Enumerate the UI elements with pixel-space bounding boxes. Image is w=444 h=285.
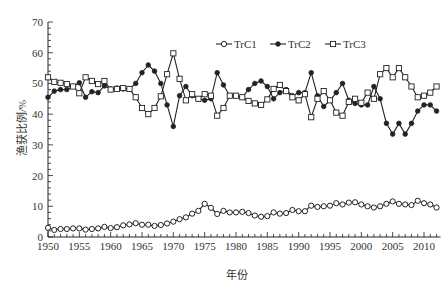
data-point-square-open [434,84,439,89]
y-axis-label: 渔获比例/% [15,100,28,156]
data-point-square-open [415,95,420,100]
data-point-circle-open [371,205,376,210]
data-point-circle-open [96,226,101,231]
data-point-circle-filled [296,90,301,95]
data-point-circle-open [258,214,263,219]
data-point-square-open [284,89,289,94]
data-point-circle-open [284,210,289,215]
data-point-circle-open [133,221,138,226]
data-point-circle-open [64,226,69,231]
data-point-square-open [70,84,75,89]
data-point-circle-open [421,201,426,206]
y-tick-label: 20 [32,170,44,182]
data-point-circle-open [227,210,232,215]
x-tick-label: 1970 [162,240,185,252]
data-point-square-open [45,75,50,80]
data-point-circle-open [190,211,195,216]
data-point-circle-open [58,226,63,231]
data-point-square-open [428,90,433,95]
data-point-circle-filled [221,83,226,88]
data-point-circle-filled [409,121,414,126]
data-point-circle-open [208,205,213,210]
y-tick-label: 30 [32,139,44,151]
x-tick-label: 1960 [100,240,123,252]
data-point-circle-filled [146,63,151,68]
data-point-circle-open [252,213,257,218]
series-trc1 [45,198,439,232]
data-point-square-open [221,105,226,110]
data-point-circle-open [183,215,188,220]
data-point-circle-filled [246,87,251,92]
axes: 0102030405060701950195519601965197019751… [32,16,441,252]
data-point-circle-filled [152,69,157,74]
legend-label: TrC2 [288,38,311,50]
data-point-square-open [277,82,282,87]
data-point-circle-open [334,201,339,206]
data-point-square-open [396,65,401,70]
data-point-circle-filled [65,87,70,92]
data-point-circle-filled [365,103,370,108]
data-point-circle-open [177,217,182,222]
data-point-square-open [359,100,364,105]
data-point-circle-filled [102,84,107,89]
data-point-circle-open [127,222,132,227]
line-chart: 0102030405060701950195519601965197019751… [0,0,444,285]
data-point-circle-filled [422,103,427,108]
data-point-circle-open [146,222,151,227]
data-point-square-open [139,105,144,110]
data-point-circle-open [215,211,220,216]
data-point-circle-filled [184,84,189,89]
data-point-square-open [114,86,119,91]
y-tick-label: 60 [32,47,44,59]
data-point-square-open [208,93,213,98]
data-point-circle-filled [202,98,207,103]
data-point-circle-filled [140,70,145,75]
data-point-square-open [378,72,383,77]
data-point-circle-open [346,200,351,205]
data-point-square-open [202,92,207,97]
data-point-square-open [127,86,132,91]
data-point-circle-open [52,227,57,232]
data-point-circle-open [139,222,144,227]
data-point-square-open [246,98,251,103]
data-point-square-open [177,76,182,81]
data-point-circle-open [390,199,395,204]
data-point-circle-open [403,202,408,207]
data-point-square-open [121,85,126,90]
data-point-circle-open [221,41,226,46]
data-point-circle-filled [415,109,420,114]
data-point-circle-filled [171,124,176,129]
data-point-circle-filled [46,95,51,100]
data-point-circle-filled [321,104,326,109]
data-point-circle-open [315,204,320,209]
data-point-circle-open [428,202,433,207]
data-point-circle-open [233,210,238,215]
data-point-circle-filled [334,90,339,95]
data-point-circle-open [121,223,126,228]
data-point-square-open [321,89,326,94]
data-point-square-open [96,81,101,86]
x-tick-label: 1995 [319,240,342,252]
data-point-square-open [271,86,276,91]
y-tick-label: 50 [32,77,44,89]
data-point-square-open [240,95,245,100]
data-point-circle-open [114,225,119,230]
legend-item-trc2: TrC2 [270,38,311,50]
data-point-circle-filled [340,81,345,86]
data-point-square-open [252,101,257,106]
data-point-circle-open [378,204,383,209]
data-point-circle-filled [265,84,270,89]
data-point-circle-filled [278,90,283,95]
data-point-square-open [365,90,370,95]
data-point-square-open [108,87,113,92]
data-point-square-open [190,92,195,97]
data-point-square-open [346,99,351,104]
data-point-circle-filled [372,84,377,89]
data-point-circle-open [409,202,414,207]
data-point-circle-open [221,208,226,213]
data-point-circle-open [89,226,94,231]
x-tick-label: 2005 [382,240,405,252]
x-tick-label: 1965 [131,240,154,252]
data-point-circle-open [196,208,201,213]
data-point-square-open [215,113,220,118]
